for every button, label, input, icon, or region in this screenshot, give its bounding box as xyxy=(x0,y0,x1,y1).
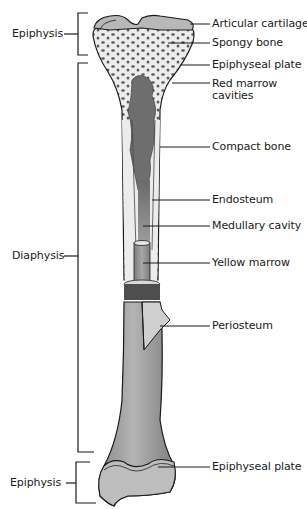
label-epiphyseal-plate-top: Epiphyseal plate xyxy=(212,59,302,71)
label-compact-bone: Compact bone xyxy=(212,141,291,153)
label-diaphysis: Diaphysis xyxy=(12,250,64,262)
label-spongy-bone: Spongy bone xyxy=(212,37,283,49)
bracket-epiphysis-bottom xyxy=(66,462,96,503)
label-red-marrow-cavities: cavities xyxy=(212,90,253,102)
label-epiphysis-top: Epiphysis xyxy=(12,28,63,40)
label-medullary-cavity: Medullary cavity xyxy=(212,220,301,232)
label-epiphyseal-plate-bottom: Epiphyseal plate xyxy=(212,461,302,473)
bracket-diaphysis xyxy=(64,63,94,452)
label-articular-cartilage: Articular cartilage xyxy=(212,18,307,30)
label-periosteum: Periosteum xyxy=(212,320,273,332)
label-endosteum: Endosteum xyxy=(212,194,273,206)
medullary-cavity xyxy=(138,180,150,245)
label-epiphysis-bottom: Epiphysis xyxy=(10,477,61,489)
articular-cartilage xyxy=(94,15,193,30)
label-yellow-marrow: Yellow marrow xyxy=(212,257,290,269)
bracket-epiphysis-top xyxy=(64,13,88,55)
